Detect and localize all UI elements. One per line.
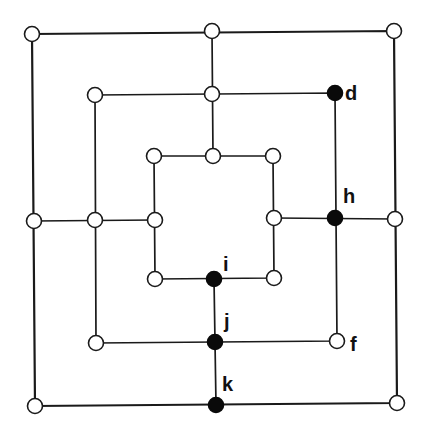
point-label-i: i — [223, 253, 229, 275]
empty-point-inner-tm — [206, 149, 221, 164]
empty-point-outer-tr — [387, 24, 402, 39]
point-label-j: j — [223, 310, 230, 332]
empty-point-middle-br — [330, 334, 345, 349]
empty-point-middle-bl — [89, 336, 104, 351]
empty-point-middle-tl — [88, 88, 103, 103]
filled-point-inner-bm — [207, 272, 222, 287]
point-label-k: k — [222, 373, 234, 395]
point-label-h: h — [343, 185, 355, 207]
empty-point-outer-tl — [25, 27, 40, 42]
inner-square — [154, 156, 274, 279]
empty-point-outer-bl — [28, 399, 43, 414]
point-label-d: d — [345, 82, 357, 104]
empty-point-middle-ml — [88, 213, 103, 228]
empty-point-middle-tm — [205, 87, 220, 102]
empty-point-outer-tm — [205, 24, 220, 39]
morris-board-diagram: kdhjfi — [0, 0, 426, 442]
empty-point-inner-mr — [267, 211, 282, 226]
filled-point-middle-mr — [328, 211, 343, 226]
empty-point-inner-ml — [148, 213, 163, 228]
empty-point-inner-tr — [266, 149, 281, 164]
filled-point-middle-bm — [208, 335, 223, 350]
filled-point-outer-bm — [209, 398, 224, 413]
empty-point-outer-ml — [27, 214, 42, 229]
point-label-f: f — [350, 333, 357, 355]
empty-point-inner-br — [267, 271, 282, 286]
empty-point-inner-tl — [147, 149, 162, 164]
empty-point-outer-br — [390, 396, 405, 411]
empty-point-inner-bl — [148, 272, 163, 287]
empty-point-outer-mr — [388, 212, 403, 227]
filled-point-middle-tr — [328, 86, 343, 101]
